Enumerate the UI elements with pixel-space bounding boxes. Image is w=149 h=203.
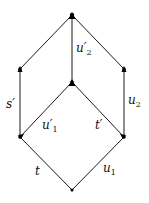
node-lower-right <box>122 135 126 139</box>
edge-upper-left-top <box>20 15 72 69</box>
label-u2: u2 <box>128 93 141 109</box>
node-middle <box>70 80 74 84</box>
lattice-diagram: u′2 s′ u′1 t′ u2 t u1 <box>0 0 149 203</box>
label-s-prime: s′ <box>6 97 15 111</box>
edge-u1 <box>72 137 124 190</box>
label-u1-prime: u′1 <box>42 118 58 134</box>
node-upper-left <box>18 67 22 71</box>
label-t: t <box>35 164 40 178</box>
node-lower-left <box>18 135 22 139</box>
node-bottom <box>70 188 73 191</box>
label-t-prime: t′ <box>95 118 103 132</box>
edge-t <box>20 137 72 190</box>
label-u1: u1 <box>103 161 116 177</box>
edge-labels: u′2 s′ u′1 t′ u2 t u1 <box>6 41 141 178</box>
node-upper-right <box>122 67 126 71</box>
node-top <box>70 13 74 17</box>
label-u2-prime: u′2 <box>76 41 92 57</box>
